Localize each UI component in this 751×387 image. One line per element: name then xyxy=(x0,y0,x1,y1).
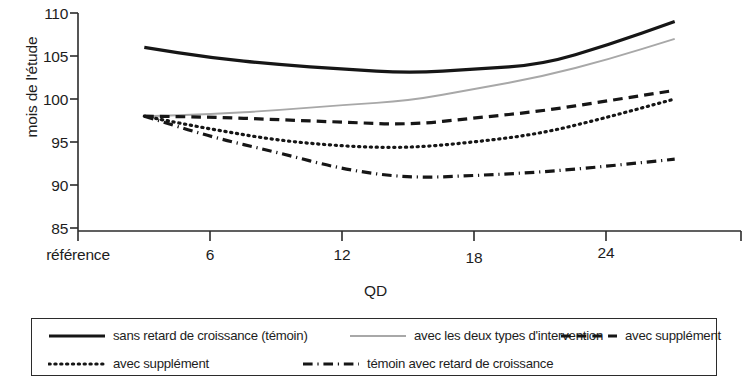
legend-row-2: avec supplément témoin avec retard de cr… xyxy=(32,349,716,378)
chart-legend: sans retard de croissance (témoin) avec … xyxy=(31,318,717,376)
legend-label-0: sans retard de croissance (témoin) xyxy=(113,328,308,343)
plot-area: mois de l'étude 110 105 100 95 90 85 xyxy=(0,0,751,310)
legend-label-4: témoin avec retard de croissance xyxy=(367,356,553,371)
legend-swatch-dashdot-icon xyxy=(302,357,360,371)
legend-entry-0: sans retard de croissance (témoin) xyxy=(48,321,308,350)
legend-label-2: avec supplément xyxy=(625,328,721,343)
legend-swatch-solid-light-icon xyxy=(349,329,407,343)
legend-swatch-solid-icon xyxy=(48,329,106,343)
x-axis-title: QD xyxy=(0,282,751,300)
series-line-1 xyxy=(144,39,674,116)
x-tick-label-12: 12 xyxy=(322,246,362,264)
x-tick-label-24: 24 xyxy=(586,244,626,262)
x-tick-label-6: 6 xyxy=(190,246,230,264)
series-line-0 xyxy=(144,22,674,73)
series-line-4 xyxy=(144,116,674,177)
legend-label-3: avec supplément xyxy=(113,356,209,371)
x-tick-label-reference: référence xyxy=(18,246,138,264)
legend-entry-4: témoin avec retard de croissance xyxy=(302,349,553,378)
x-tick-label-18: 18 xyxy=(454,249,494,267)
chart-figure: mois de l'étude 110 105 100 95 90 85 xyxy=(0,0,751,387)
legend-entry-3: avec supplément xyxy=(48,349,209,378)
legend-swatch-dashed-icon xyxy=(560,329,618,343)
data-series-group xyxy=(144,22,674,178)
legend-row-1: sans retard de croissance (témoin) avec … xyxy=(32,321,716,350)
series-line-2 xyxy=(144,90,674,123)
axes xyxy=(70,13,741,241)
legend-entry-2: avec supplément xyxy=(560,321,721,350)
legend-swatch-dotted-icon xyxy=(48,357,106,371)
